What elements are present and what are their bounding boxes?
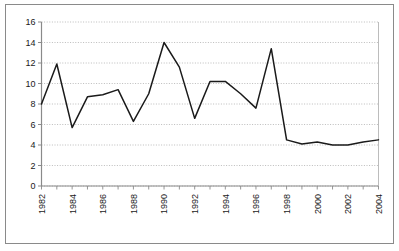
y-axis-tick-labels: 0246810121416 — [25, 17, 35, 191]
y-axis-tick-label: 14 — [25, 38, 35, 48]
y-axis-tick-label: 12 — [25, 58, 35, 68]
x-axis-tick-label: 1994 — [221, 194, 231, 214]
x-axis-tick-label: 2000 — [313, 194, 323, 214]
x-axis-tick-label: 1996 — [251, 194, 261, 214]
x-axis-ticks — [42, 186, 379, 190]
x-axis-tick-label: 2004 — [374, 194, 384, 214]
x-axis-tick-label: 1982 — [37, 194, 47, 214]
y-axis-tick-label: 10 — [25, 79, 35, 89]
y-axis-tick-label: 4 — [30, 140, 35, 150]
data-line — [42, 43, 379, 146]
x-axis-tick-label: 1986 — [98, 194, 108, 214]
grid-lines — [42, 22, 379, 186]
x-axis-tick-label: 2002 — [343, 194, 353, 214]
y-axis-tick-label: 2 — [30, 161, 35, 171]
x-axis-tick-label: 1984 — [68, 194, 78, 214]
data-series-line — [42, 43, 379, 146]
y-axis-tick-label: 16 — [25, 17, 35, 27]
chart-figure: 0246810121416 19821984198619881990199219… — [0, 0, 399, 251]
x-axis-tick-label: 1998 — [282, 194, 292, 214]
y-axis-tick-label: 8 — [30, 99, 35, 109]
line-chart: 0246810121416 19821984198619881990199219… — [0, 0, 399, 251]
x-axis-tick-label: 1990 — [159, 194, 169, 214]
y-axis-tick-label: 6 — [30, 120, 35, 130]
x-axis-tick-label: 1992 — [190, 194, 200, 214]
y-axis-tick-label: 0 — [30, 181, 35, 191]
x-axis-tick-labels: 1982198419861988199019921994199619982000… — [37, 194, 384, 214]
x-axis-tick-label: 1988 — [129, 194, 139, 214]
